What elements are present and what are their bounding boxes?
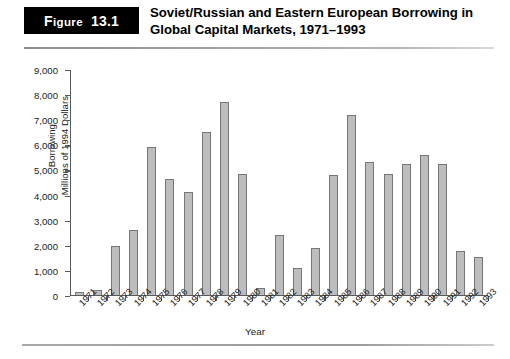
figure-header: Figure 13.1 Soviet/Russian and Eastern E… xyxy=(0,0,510,46)
y-tick-label: 3,000 xyxy=(34,215,58,226)
bar xyxy=(420,155,429,295)
y-tick: 4,000 xyxy=(65,196,70,197)
bar xyxy=(147,147,156,294)
y-tick-label: 4,000 xyxy=(34,190,58,201)
y-tick-label: 8,000 xyxy=(34,90,58,101)
y-tick-label: 2,000 xyxy=(34,240,58,251)
y-tick: 1,000 xyxy=(65,271,70,272)
bar-series xyxy=(70,70,488,295)
figure-number: 13.1 xyxy=(91,13,119,29)
bar xyxy=(438,164,447,295)
bar xyxy=(402,164,411,295)
bar xyxy=(238,174,247,295)
plot-area: 01,0002,0003,0004,0005,0006,0007,0008,00… xyxy=(70,70,488,296)
bar xyxy=(165,179,174,295)
y-tick: 5,000 xyxy=(65,170,70,171)
y-tick: 7,000 xyxy=(65,120,70,121)
x-axis-title: Year xyxy=(0,326,510,337)
footer-divider xyxy=(22,344,494,346)
bar xyxy=(184,192,193,294)
y-tick: 0 xyxy=(65,296,70,297)
y-tick: 8,000 xyxy=(65,95,70,96)
bar xyxy=(275,235,284,295)
figure-title: Soviet/Russian and Eastern European Borr… xyxy=(150,5,495,39)
y-tick-label: 5,000 xyxy=(34,165,58,176)
bar xyxy=(347,115,356,295)
y-tick: 9,000 xyxy=(65,70,70,71)
y-tick: 3,000 xyxy=(65,221,70,222)
y-tick-label: 1,000 xyxy=(34,265,58,276)
bar xyxy=(129,230,138,295)
y-tick: 6,000 xyxy=(65,145,70,146)
bar xyxy=(202,132,211,294)
y-tick: 2,000 xyxy=(65,246,70,247)
bar xyxy=(365,162,374,294)
header-divider xyxy=(24,47,494,49)
bar xyxy=(384,174,393,295)
y-tick-label: 9,000 xyxy=(34,65,58,76)
y-tick-label: 7,000 xyxy=(34,115,58,126)
y-tick-label: 0 xyxy=(53,291,58,302)
figure-number-badge: Figure 13.1 xyxy=(24,7,139,34)
bar xyxy=(111,246,120,295)
bar-chart: Borrowing Millions of 1994 Dollars 01,00… xyxy=(0,55,510,335)
bar xyxy=(329,175,338,295)
bar xyxy=(311,248,320,294)
figure-label: Figure xyxy=(44,13,83,29)
bar xyxy=(220,102,229,294)
y-tick-label: 6,000 xyxy=(34,140,58,151)
